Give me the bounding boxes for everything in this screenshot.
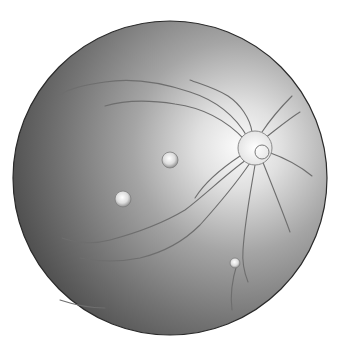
spot-2: [115, 191, 131, 207]
spot-3: [230, 258, 240, 268]
spot-1: [162, 152, 178, 168]
fundus-disc: [13, 21, 327, 335]
optic-disc: [238, 131, 272, 165]
fundus-image: [0, 0, 339, 352]
